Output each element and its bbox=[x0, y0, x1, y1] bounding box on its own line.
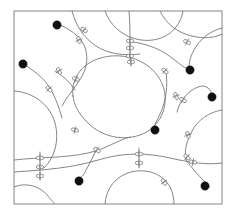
dot-top-right bbox=[186, 66, 194, 74]
dot-center bbox=[151, 126, 159, 134]
curve-diagram-canvas bbox=[0, 0, 236, 215]
dot-left bbox=[19, 60, 27, 68]
dot-bottom-left bbox=[75, 177, 83, 185]
dot-bottom-right bbox=[201, 182, 209, 190]
dot-top-left bbox=[53, 21, 61, 29]
bounding-frame bbox=[14, 11, 222, 204]
figure-root bbox=[0, 0, 236, 215]
dot-right bbox=[208, 93, 216, 101]
